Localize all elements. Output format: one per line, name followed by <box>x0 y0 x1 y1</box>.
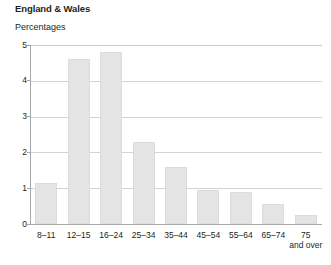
y-axis-line <box>30 45 31 225</box>
bar <box>35 183 57 224</box>
bar <box>230 192 252 224</box>
x-tick-label-line: and over <box>276 240 331 250</box>
y-tick-label: 2 <box>3 148 27 157</box>
x-tick-label-line: 75 <box>301 230 310 240</box>
bar <box>133 142 155 224</box>
bar <box>68 59 90 224</box>
y-tick: 5 <box>0 41 27 50</box>
bar <box>295 215 317 224</box>
y-tick: 3 <box>0 112 27 121</box>
y-tick-label: 1 <box>3 184 27 193</box>
plot-area: 012345 8–1112–1516–2425–3435–4445–5455–6… <box>0 0 331 265</box>
y-tick: 1 <box>0 184 27 193</box>
y-tick-label: 3 <box>3 112 27 121</box>
x-tick-label: 75and over <box>276 230 331 250</box>
bar <box>165 167 187 224</box>
gridline <box>30 45 322 46</box>
chart-container: England & Wales Percentages 012345 8–111… <box>0 0 331 265</box>
bar <box>100 52 122 224</box>
bar <box>262 204 284 224</box>
y-tick: 2 <box>0 148 27 157</box>
y-tick: 4 <box>0 76 27 85</box>
y-tick-label: 0 <box>3 220 27 229</box>
x-axis-line <box>30 224 322 225</box>
bar <box>197 190 219 224</box>
y-tick: 0 <box>0 220 27 229</box>
y-tick-label: 4 <box>3 76 27 85</box>
y-tick-label: 5 <box>3 41 27 50</box>
